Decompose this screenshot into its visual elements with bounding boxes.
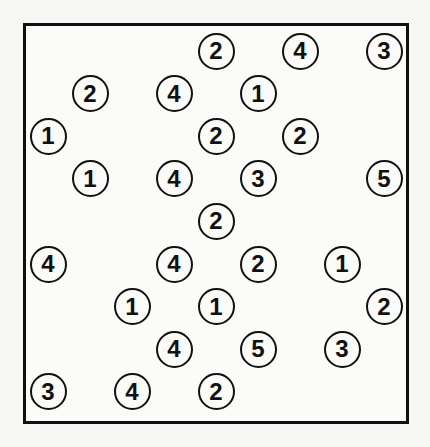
island-node[interactable]: 3	[240, 160, 277, 197]
island-node[interactable]: 4	[156, 246, 193, 283]
island-value: 2	[293, 124, 306, 148]
island-value: 5	[377, 167, 390, 191]
island-node[interactable]: 1	[114, 288, 151, 325]
island-value: 2	[83, 82, 96, 106]
island-node[interactable]: 2	[366, 288, 403, 325]
island-value: 4	[167, 167, 180, 191]
island-value: 2	[209, 39, 222, 63]
island-value: 4	[167, 252, 180, 276]
island-value: 2	[377, 295, 390, 319]
island-node[interactable]: 2	[198, 118, 235, 155]
island-value: 2	[209, 380, 222, 404]
island-value: 2	[251, 252, 264, 276]
island-node[interactable]: 3	[30, 373, 67, 410]
island-value: 1	[251, 82, 264, 106]
island-node[interactable]: 5	[366, 160, 403, 197]
island-node[interactable]: 1	[324, 246, 361, 283]
island-value: 2	[209, 209, 222, 233]
island-node[interactable]: 1	[240, 75, 277, 112]
island-value: 3	[335, 337, 348, 361]
island-node[interactable]: 2	[198, 373, 235, 410]
island-node[interactable]: 5	[240, 331, 277, 368]
island-node[interactable]: 2	[72, 75, 109, 112]
puzzle-board: 243241122143524421112453342	[23, 23, 409, 424]
island-node[interactable]: 4	[156, 75, 193, 112]
island-node[interactable]: 1	[198, 288, 235, 325]
island-value: 1	[209, 295, 222, 319]
island-node[interactable]: 2	[198, 203, 235, 240]
island-value: 4	[167, 82, 180, 106]
island-value: 2	[209, 124, 222, 148]
island-value: 3	[377, 39, 390, 63]
island-value: 4	[125, 380, 138, 404]
island-value: 1	[83, 167, 96, 191]
island-node[interactable]: 4	[156, 160, 193, 197]
island-node[interactable]: 3	[366, 33, 403, 70]
island-node[interactable]: 2	[198, 33, 235, 70]
island-value: 5	[251, 337, 264, 361]
island-node[interactable]: 2	[282, 118, 319, 155]
island-node[interactable]: 3	[324, 331, 361, 368]
island-value: 3	[41, 380, 54, 404]
island-node[interactable]: 4	[282, 33, 319, 70]
island-value: 1	[125, 295, 138, 319]
island-node[interactable]: 4	[114, 373, 151, 410]
island-value: 4	[41, 252, 54, 276]
island-node[interactable]: 2	[240, 246, 277, 283]
island-value: 1	[335, 252, 348, 276]
island-node[interactable]: 4	[30, 246, 67, 283]
island-value: 3	[251, 167, 264, 191]
island-value: 4	[293, 39, 306, 63]
island-value: 4	[167, 337, 180, 361]
island-value: 1	[41, 124, 54, 148]
island-node[interactable]: 4	[156, 331, 193, 368]
island-node[interactable]: 1	[30, 118, 67, 155]
island-node[interactable]: 1	[72, 160, 109, 197]
